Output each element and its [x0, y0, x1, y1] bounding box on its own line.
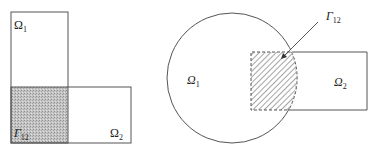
right-overlap-region [251, 52, 311, 110]
gamma12-pointer-line [284, 22, 318, 56]
right-figure: Ω1 Ω2 Γ12 [167, 9, 367, 143]
left-omega2-label: Ω2 [110, 126, 123, 142]
right-gamma12-label: Γ12 [325, 9, 341, 25]
right-omega2-rect-solid [290, 52, 367, 110]
left-omega1-label: Ω1 [14, 18, 27, 34]
domain-decomposition-diagram: Ω1 Γ12 Ω2 Ω1 Ω2 Γ12 [0, 0, 376, 153]
left-figure: Ω1 Γ12 Ω2 [11, 12, 131, 143]
right-omega2-label: Ω2 [334, 75, 347, 91]
right-omega1-label: Ω1 [187, 73, 200, 89]
